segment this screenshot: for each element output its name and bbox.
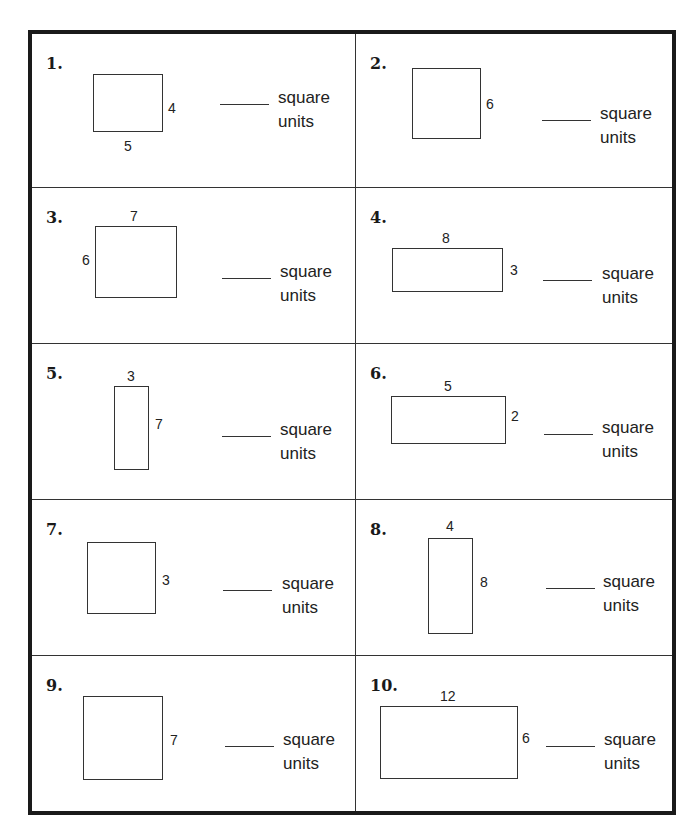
units-label: squareunits xyxy=(602,416,654,464)
height-label: 2 xyxy=(511,408,519,424)
rectangle-shape xyxy=(391,396,506,444)
answer-blank[interactable] xyxy=(225,746,274,747)
units-label: squareunits xyxy=(283,728,335,776)
answer-blank[interactable] xyxy=(223,590,272,591)
answer-blank[interactable] xyxy=(544,434,593,435)
side-label: 3 xyxy=(162,572,170,588)
problem-3: 3. 7 6 squareunits xyxy=(32,188,356,344)
units-label: squareunits xyxy=(280,418,332,466)
problem-6: 6. 5 2 squareunits xyxy=(356,344,672,500)
width-label: 12 xyxy=(440,688,456,704)
height-label: 7 xyxy=(155,416,163,432)
rectangle-shape xyxy=(380,706,518,779)
problem-number: 2. xyxy=(370,54,387,73)
problem-8: 8. 4 8 squareunits xyxy=(356,500,672,656)
side-label: 7 xyxy=(170,732,178,748)
problem-7: 7. 3 squareunits xyxy=(32,500,356,656)
problem-number: 3. xyxy=(46,208,63,227)
problem-5: 5. 3 7 squareunits xyxy=(32,344,356,500)
width-label: 5 xyxy=(444,378,452,394)
rectangle-shape xyxy=(428,538,473,634)
problem-9: 9. 7 squareunits xyxy=(32,656,356,811)
answer-blank[interactable] xyxy=(543,280,592,281)
rectangle-shape xyxy=(392,248,503,292)
height-label: 6 xyxy=(82,252,90,268)
answer-blank[interactable] xyxy=(542,120,591,121)
side-label: 6 xyxy=(486,96,494,112)
problem-number: 1. xyxy=(46,54,63,73)
answer-blank[interactable] xyxy=(222,436,271,437)
problem-number: 8. xyxy=(370,520,387,539)
height-label: 4 xyxy=(168,100,176,116)
width-label: 8 xyxy=(442,230,450,246)
problem-1: 1. 4 5 squareunits xyxy=(32,34,356,188)
rectangle-shape xyxy=(93,74,163,132)
problem-number: 10. xyxy=(370,676,398,695)
height-label: 6 xyxy=(522,730,530,746)
square-shape xyxy=(412,68,481,139)
units-label: squareunits xyxy=(603,570,655,618)
problem-number: 6. xyxy=(370,364,387,383)
problem-number: 4. xyxy=(370,208,387,227)
units-label: squareunits xyxy=(278,86,330,134)
rectangle-shape xyxy=(114,386,149,470)
width-label: 4 xyxy=(446,518,454,534)
units-label: squareunits xyxy=(282,572,334,620)
units-label: squareunits xyxy=(602,262,654,310)
problem-number: 7. xyxy=(46,520,63,539)
height-label: 3 xyxy=(510,262,518,278)
width-label: 3 xyxy=(127,368,135,384)
answer-blank[interactable] xyxy=(220,104,269,105)
units-label: squareunits xyxy=(280,260,332,308)
problem-10: 10. 12 6 squareunits xyxy=(356,656,672,811)
rectangle-shape xyxy=(95,226,177,298)
answer-blank[interactable] xyxy=(546,746,595,747)
width-label: 5 xyxy=(124,138,132,154)
square-shape xyxy=(83,696,163,780)
height-label: 8 xyxy=(480,574,488,590)
width-label: 7 xyxy=(130,208,138,224)
units-label: squareunits xyxy=(600,102,652,150)
problem-number: 9. xyxy=(46,676,63,695)
problem-2: 2. 6 squareunits xyxy=(356,34,672,188)
problem-number: 5. xyxy=(46,364,63,383)
problem-grid: 1. 4 5 squareunits 2. 6 squareunits 3. 7… xyxy=(32,34,672,811)
units-label: squareunits xyxy=(604,728,656,776)
worksheet-frame: 1. 4 5 squareunits 2. 6 squareunits 3. 7… xyxy=(28,30,676,815)
problem-4: 4. 8 3 squareunits xyxy=(356,188,672,344)
answer-blank[interactable] xyxy=(222,278,271,279)
answer-blank[interactable] xyxy=(546,588,595,589)
square-shape xyxy=(87,542,156,614)
